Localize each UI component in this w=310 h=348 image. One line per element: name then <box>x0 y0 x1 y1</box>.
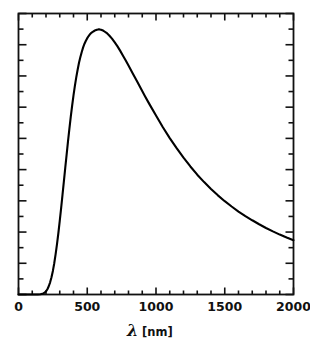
x-tick-label: 1000 <box>139 299 174 314</box>
x-axis-label-symbol: λ <box>126 321 138 340</box>
x-tick-label: 500 <box>74 299 100 314</box>
x-tick-label: 1500 <box>207 299 242 314</box>
blackbody-spectrum-chart: 0500100015002000 λ [nm] <box>0 0 310 348</box>
x-tick-label: 0 <box>14 299 23 314</box>
x-axis-label-unit: [nm] <box>142 325 173 339</box>
figure-canvas: 0500100015002000 λ [nm] <box>0 0 310 348</box>
x-tick-label: 2000 <box>276 299 310 314</box>
chart-background <box>0 0 310 348</box>
